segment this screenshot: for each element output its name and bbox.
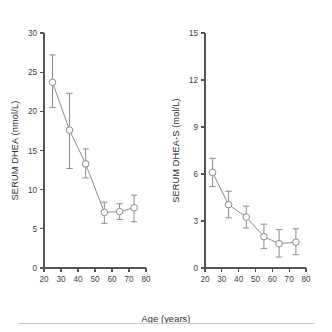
x-tick-label: 30	[217, 275, 227, 284]
x-tick-label: 60	[268, 275, 278, 284]
y-axis-label: SERUM DHEA (nmol/L)	[10, 101, 20, 201]
y-axis-label: SERUM DHEA-S (mol/L)	[171, 98, 181, 203]
data-point-marker	[101, 209, 108, 216]
data-point-marker	[261, 233, 268, 240]
x-tick-label: 50	[251, 275, 261, 284]
x-tick-label: 70	[124, 275, 134, 284]
y-tick-label: 5	[32, 225, 37, 234]
data-point-marker	[49, 79, 56, 86]
y-tick-label: 15	[189, 29, 199, 38]
data-point-marker	[66, 127, 73, 134]
data-point-marker	[116, 208, 123, 215]
data-point-marker	[225, 201, 232, 208]
y-tick-label: 20	[28, 107, 38, 116]
y-tick-label: 6	[193, 170, 198, 179]
chart-panel-left-dhea: 05101520253020304050607080SERUM DHEA (nm…	[10, 29, 151, 284]
data-point-marker	[82, 161, 89, 168]
y-tick-label: 10	[28, 186, 38, 195]
y-tick-label: 0	[193, 264, 198, 273]
y-tick-label: 9	[193, 123, 198, 132]
series-connecting-line	[213, 172, 296, 243]
figure-container: 05101520253020304050607080SERUM DHEA (nm…	[0, 0, 332, 332]
x-tick-label: 80	[301, 275, 311, 284]
chart-panel-right-dhea-s: 0369121520304050607080SERUM DHEA-S (mol/…	[171, 29, 311, 284]
y-tick-label: 12	[189, 76, 199, 85]
y-tick-label: 0	[32, 264, 37, 273]
x-tick-label: 40	[73, 275, 83, 284]
y-tick-label: 3	[193, 217, 198, 226]
x-tick-label: 20	[200, 275, 210, 284]
data-point-marker	[243, 214, 250, 221]
data-point-marker	[293, 239, 300, 246]
data-point-marker	[131, 204, 138, 211]
data-point-marker	[276, 240, 283, 247]
x-tick-label: 60	[107, 275, 117, 284]
x-tick-label: 20	[39, 275, 49, 284]
y-tick-label: 15	[28, 147, 38, 156]
y-tick-label: 30	[28, 29, 38, 38]
x-tick-label: 50	[90, 275, 100, 284]
x-tick-label: 70	[285, 275, 295, 284]
data-point-marker	[209, 169, 216, 176]
x-tick-label: 80	[141, 275, 151, 284]
x-tick-label: 40	[234, 275, 244, 284]
footer-divider	[18, 323, 314, 324]
series-connecting-line	[53, 82, 135, 212]
x-tick-label: 30	[56, 275, 66, 284]
y-tick-label: 25	[28, 68, 38, 77]
dhea-figure-svg: 05101520253020304050607080SERUM DHEA (nm…	[0, 0, 332, 332]
